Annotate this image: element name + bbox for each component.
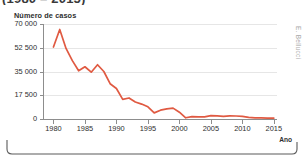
x-tick-label: 2010 (227, 124, 257, 133)
y-tick-label: 17 500 (0, 90, 37, 99)
image-credit: E. Bellucci (295, 26, 302, 59)
x-tick-label: 2000 (164, 124, 194, 133)
y-tick-label: 52 500 (0, 43, 37, 52)
x-tick-label: 1980 (38, 124, 68, 133)
y-tick-label: 70 000 (0, 19, 37, 28)
plot-area (44, 24, 277, 119)
y-tick-label: 0 (0, 114, 37, 123)
figure-title-text: (1980 – 2015) (0, 0, 304, 5)
data-line-svg (44, 24, 277, 119)
brace-path (7, 140, 297, 154)
y-tick-label: 35 000 (0, 67, 37, 76)
x-tick-label: 2015 (259, 124, 289, 133)
y-tick-mark (40, 119, 44, 120)
x-tick-label: 1995 (133, 124, 163, 133)
chart-figure: (1980 – 2015) Número de casos E. Bellucc… (0, 0, 304, 155)
x-tick-label: 2005 (196, 124, 226, 133)
figure-title-clipped: (1980 – 2015) (0, 0, 304, 5)
x-tick-label: 1990 (101, 124, 131, 133)
x-tick-label: 1985 (70, 124, 100, 133)
bottom-brace (6, 140, 298, 155)
series-line-numero-de-casos (53, 29, 273, 118)
